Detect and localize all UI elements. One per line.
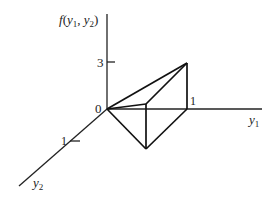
f-axis-label: f(y1, y2) [59, 12, 98, 29]
y2-axis-label: y2 [31, 175, 43, 192]
tick-label-3: 3 [97, 55, 104, 70]
density-diagram: f(y1, y2) 3 0 1 1 y1 y2 [0, 0, 277, 200]
tick-label-origin: 0 [95, 101, 102, 116]
tick-label-y2-1: 1 [61, 134, 67, 148]
y1-axis-label: y1 [247, 112, 259, 129]
edge-origin-bottom [107, 109, 146, 149]
tick-label-y1-1: 1 [190, 94, 196, 108]
edge-bottom-y1 [146, 109, 187, 149]
